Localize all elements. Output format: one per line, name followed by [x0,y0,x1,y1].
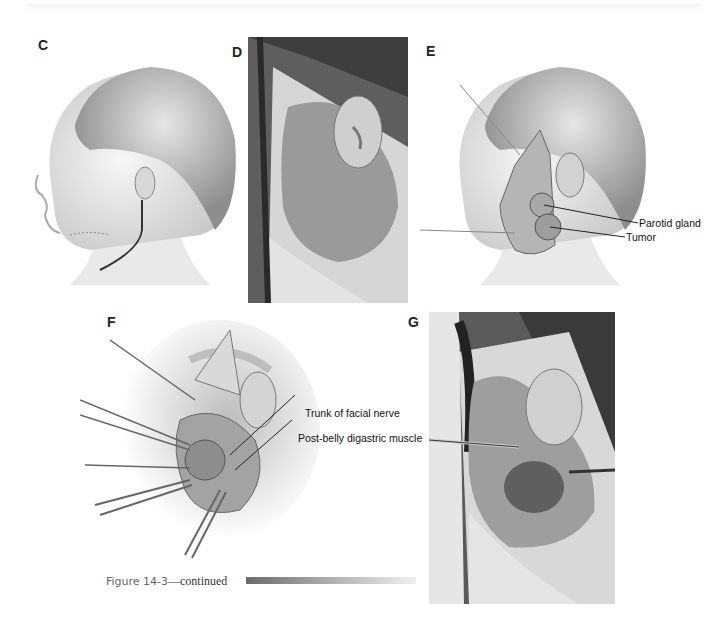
panel-g-photo [429,312,615,604]
panel-label-d: D [232,44,242,60]
callout-tumor: Tumor [626,231,656,243]
panel-label-c: C [38,37,48,53]
caption-gradient-bar [246,577,416,584]
panel-label-g: G [408,314,419,330]
figure-caption: Figure 14-3—continued [106,574,227,589]
top-rule [28,4,700,9]
panel-d-photo [248,37,408,303]
callout-trunk-of-facial-nerve: Trunk of facial nerve [305,407,400,419]
panel-c-illustration [30,55,240,295]
panel-f-illustration [80,320,320,570]
callout-parotid-gland: Parotid gland [639,217,701,229]
panel-e-illustration [420,55,650,295]
figure-number: Figure 14-3 [106,575,168,588]
figure-continued: —continued [168,574,227,588]
callout-post-belly-digastric-muscle: Post-belly digastric muscle [298,432,422,444]
